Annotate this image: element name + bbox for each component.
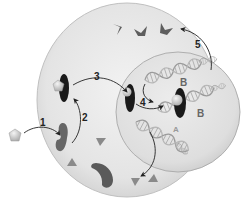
dna-label-A: A — [173, 125, 179, 134]
step-label-4: 4 — [140, 97, 146, 108]
dna-label-B-top: B — [180, 77, 187, 88]
step-label-3: 3 — [94, 71, 100, 82]
step-label-2: 2 — [82, 112, 88, 123]
bound-hormone-3 — [172, 95, 183, 106]
step-label-5: 5 — [195, 39, 201, 50]
dna-label-B-bound: B — [197, 108, 204, 119]
cell-signaling-diagram: 1 2 3 4 5 B B A — [0, 0, 243, 201]
hormone-outside — [9, 129, 21, 141]
step-label-1: 1 — [40, 117, 46, 128]
